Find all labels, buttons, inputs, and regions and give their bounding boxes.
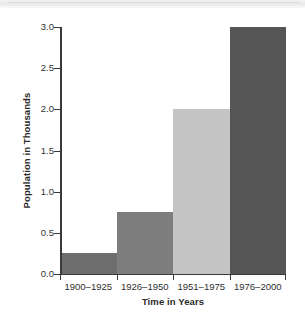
y-tick-label: 3.0 bbox=[28, 22, 54, 32]
x-tick-label: 1951–1975 bbox=[173, 281, 230, 293]
x-tick-mark bbox=[60, 274, 61, 280]
y-tick-label: 2.0 bbox=[28, 104, 54, 114]
bar-1976-2000 bbox=[230, 27, 287, 274]
y-axis-tick-labels: 0.0 0.5 1.0 1.5 2.0 2.5 3.0 bbox=[26, 0, 54, 319]
y-axis-line bbox=[60, 27, 62, 275]
y-tick-label: 2.5 bbox=[28, 63, 54, 73]
x-tick-label: 1900–1925 bbox=[60, 281, 117, 293]
bar-1951-1975 bbox=[173, 109, 230, 274]
x-tick-label: 1926–1950 bbox=[117, 281, 174, 293]
x-tick-label: 1976–2000 bbox=[230, 281, 287, 293]
y-tick-label: 0.0 bbox=[28, 269, 54, 279]
x-tick-mark bbox=[173, 274, 174, 280]
y-tick-label: 0.5 bbox=[28, 228, 54, 238]
bar-1926-1950 bbox=[117, 212, 174, 274]
bar-chart-figure: Population in Thousands 0.0 0.5 1.0 1.5 … bbox=[0, 0, 305, 319]
y-tick-label: 1.0 bbox=[28, 187, 54, 197]
bar-1900-1925 bbox=[60, 253, 117, 274]
y-tick-label: 1.5 bbox=[28, 146, 54, 156]
x-tick-mark bbox=[230, 274, 231, 280]
x-tick-mark bbox=[285, 274, 286, 280]
x-tick-mark bbox=[117, 274, 118, 280]
x-axis-title: Time in Years bbox=[60, 296, 286, 308]
